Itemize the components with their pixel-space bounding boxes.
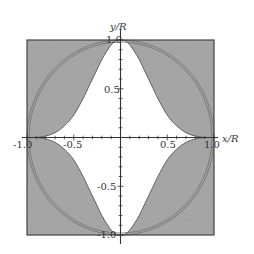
y-tick-label: -0.5 [97,181,116,192]
y-tick-label: 1.0 [106,34,122,45]
y-axis-label: y/R [109,21,127,32]
x-tick-label: 0.5 [160,139,176,150]
y-tick-label: -1.0 [97,229,116,240]
chart: -1.0 -0.5 0.5 1.0 1.0 0.5 -0.5 -1.0 x/R … [0,0,254,254]
x-tick-label: -1.0 [13,139,32,150]
x-axis-label: x/R [222,133,239,144]
y-tick-label: 0.5 [104,84,120,95]
x-tick-label: 1.0 [204,139,220,150]
x-tick-label: -0.5 [63,139,82,150]
